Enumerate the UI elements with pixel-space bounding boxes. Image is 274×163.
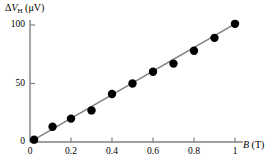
- data-point: [169, 59, 177, 67]
- data-point: [128, 79, 136, 87]
- x-tick-label-0: 0: [16, 147, 44, 157]
- y-axis-label-unit: (μV): [25, 2, 44, 13]
- y-tick-label-0: 0: [0, 137, 25, 147]
- data-point: [67, 114, 75, 122]
- y-axis-label-subscript: H: [18, 7, 23, 15]
- y-tick-label-100: 100: [0, 20, 25, 30]
- x-tick-label-1: 1: [221, 147, 249, 157]
- plot-area: [0, 0, 274, 163]
- x-tick-label-0.4: 0.4: [98, 147, 126, 157]
- data-point: [231, 20, 239, 28]
- y-axis-label: ΔVH (μV): [5, 3, 44, 13]
- data-point: [48, 123, 56, 131]
- x-tick-label-0.2: 0.2: [57, 147, 85, 157]
- y-tick-label-50: 50: [0, 79, 25, 89]
- data-points-group: [30, 20, 239, 144]
- data-point: [190, 47, 198, 55]
- data-point: [87, 106, 95, 114]
- data-point: [108, 90, 116, 98]
- x-axis-label-unit: (T): [252, 139, 265, 150]
- x-tick-label-0.6: 0.6: [139, 147, 167, 157]
- y-axis-ticks: [30, 25, 35, 84]
- data-point: [30, 135, 38, 143]
- data-point: [210, 34, 218, 42]
- y-axis-label-symbol: V: [11, 2, 17, 13]
- hall-voltage-vs-magnetic-field-chart: ΔVH (μV) B (T) 00.20.40.60.81 050100: [0, 0, 274, 163]
- data-point: [149, 68, 157, 76]
- x-tick-label-0.8: 0.8: [180, 147, 208, 157]
